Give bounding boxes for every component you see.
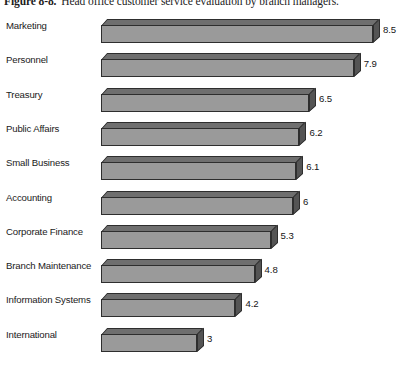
- bar-front-face: [101, 128, 299, 146]
- bar-front-face: [101, 94, 309, 112]
- category-label: Treasury: [6, 89, 98, 101]
- bar[interactable]: [101, 88, 309, 112]
- bar[interactable]: [101, 259, 255, 283]
- category-label: Marketing: [6, 20, 98, 32]
- bar-value-label: 6.1: [306, 161, 319, 172]
- bar-front-face: [101, 162, 296, 180]
- bar-value-label: 6.2: [309, 127, 322, 138]
- bar[interactable]: [101, 328, 197, 352]
- category-label: Small Business: [6, 157, 98, 169]
- bar-value-label: 8.5: [383, 24, 396, 35]
- chart-row: International3: [0, 322, 411, 356]
- category-label: International: [6, 329, 98, 341]
- bar-side-face: [299, 122, 306, 146]
- category-label: Information Systems: [6, 294, 98, 306]
- category-label: Branch Maintenance: [6, 260, 98, 272]
- bar-front-face: [101, 25, 373, 43]
- chart-row: Information Systems4.2: [0, 287, 411, 321]
- chart-row: Public Affairs6.2: [0, 116, 411, 150]
- category-label: Public Affairs: [6, 123, 98, 135]
- bar-front-face: [101, 231, 271, 249]
- bar-value-label: 4.8: [265, 264, 278, 275]
- bar-front-face: [101, 59, 354, 77]
- bar[interactable]: [101, 122, 299, 146]
- bar-front-face: [101, 197, 293, 215]
- figure-caption-text: Head office customer service evaluation …: [61, 0, 338, 7]
- figure-caption: Figure 8-8.Head office customer service …: [4, 0, 408, 8]
- chart-row: Marketing8.5: [0, 13, 411, 47]
- chart-row: Branch Maintenance4.8: [0, 253, 411, 287]
- bar-front-face: [101, 265, 255, 283]
- chart-row: Small Business6.1: [0, 150, 411, 184]
- chart-row: Accounting6: [0, 185, 411, 219]
- category-label: Accounting: [6, 192, 98, 204]
- bar-value-label: 6: [303, 196, 308, 207]
- bar[interactable]: [101, 225, 271, 249]
- category-label: Corporate Finance: [6, 226, 98, 238]
- bar-chart: Marketing8.5Personnel7.9Treasury6.5Publi…: [0, 13, 411, 369]
- bar-side-face: [354, 53, 361, 77]
- bar-side-face: [296, 156, 303, 180]
- bar-value-label: 6.5: [319, 93, 332, 104]
- bar-front-face: [101, 299, 235, 317]
- bar[interactable]: [101, 156, 296, 180]
- bar[interactable]: [101, 293, 235, 317]
- bar-side-face: [235, 293, 242, 317]
- bar-value-label: 3: [207, 333, 212, 344]
- chart-row: Personnel7.9: [0, 47, 411, 81]
- figure-number: Figure 8-8.: [4, 0, 56, 7]
- bar[interactable]: [101, 53, 354, 77]
- bar-value-label: 5.3: [281, 230, 294, 241]
- bar[interactable]: [101, 19, 373, 43]
- bar-value-label: 7.9: [364, 58, 377, 69]
- bar-front-face: [101, 334, 197, 352]
- bar-side-face: [373, 19, 380, 43]
- chart-row: Corporate Finance5.3: [0, 219, 411, 253]
- chart-row: Treasury6.5: [0, 82, 411, 116]
- bar[interactable]: [101, 191, 293, 215]
- category-label: Personnel: [6, 54, 98, 66]
- bar-value-label: 4.2: [245, 298, 258, 309]
